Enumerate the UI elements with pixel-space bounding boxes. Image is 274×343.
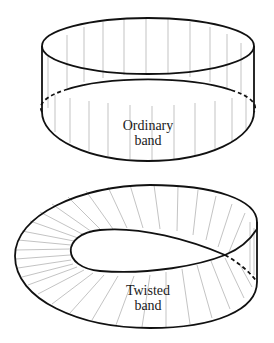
- ordinary-band-inner-back-edge: [65, 79, 231, 90]
- ordinary-band-label: Ordinary band: [103, 118, 193, 148]
- ordinary-band-hidden-edge-right: [231, 90, 255, 112]
- ordinary-band-label-line1: Ordinary: [103, 118, 193, 133]
- twisted-band-outer-top-edge: [15, 185, 257, 256]
- ordinary-band-hidden-edge-left: [41, 90, 65, 112]
- twisted-band-label-line1: Twisted: [103, 283, 193, 298]
- ordinary-band-top-edge: [42, 18, 254, 74]
- twisted-band-inner-edge: [71, 229, 257, 272]
- twisted-band-label-line2: band: [103, 298, 193, 313]
- twisted-band-label: Twisted band: [103, 283, 193, 313]
- ordinary-band-label-line2: band: [103, 133, 193, 148]
